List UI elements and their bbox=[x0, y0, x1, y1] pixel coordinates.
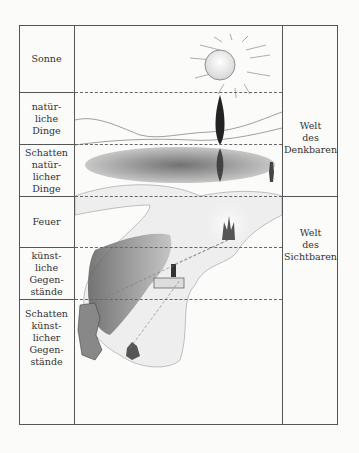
right-column: Welt des Denkbaren Welt des Sichtbaren bbox=[282, 25, 338, 425]
row-feuer: Feuer bbox=[19, 196, 74, 247]
row-label: natür- liche Dinge bbox=[32, 101, 61, 137]
wall bbox=[154, 278, 184, 288]
section-label: Welt des Sichtbaren bbox=[284, 227, 337, 263]
left-column: Sonne natür- liche Dinge Schatten natür-… bbox=[19, 25, 75, 425]
row-label: künst- liche Gegen- stände bbox=[19, 250, 74, 298]
tree-icon bbox=[216, 95, 225, 145]
row-separator bbox=[75, 196, 282, 197]
lake bbox=[85, 147, 275, 183]
standing-figure bbox=[269, 162, 274, 182]
row-natuerliche-dinge: natür- liche Dinge bbox=[19, 92, 74, 144]
section-welt-des-sichtbaren: Welt des Sichtbaren bbox=[283, 196, 338, 425]
carrier-figure bbox=[171, 264, 176, 277]
row-separator bbox=[75, 299, 282, 300]
row-label: Schatten natür- licher Dinge bbox=[25, 147, 68, 195]
sun-icon bbox=[190, 34, 270, 98]
row-kuenstliche-gegenstaende: künst- liche Gegen- stände bbox=[19, 247, 74, 299]
row-separator bbox=[75, 144, 282, 145]
row-label: Schatten künst- licher Gegen- stände bbox=[25, 308, 68, 368]
section-welt-des-denkbaren: Welt des Denkbaren bbox=[283, 25, 338, 196]
row-label: Feuer bbox=[33, 216, 61, 228]
row-schatten-natuerlicher-dinge: Schatten natür- licher Dinge bbox=[19, 144, 74, 196]
section-label: Welt des Denkbaren bbox=[284, 120, 337, 156]
row-sonne: Sonne bbox=[19, 25, 74, 92]
row-schatten-kuenstlicher-gegenstaende: Schatten künst- licher Gegen- stände bbox=[19, 299, 74, 425]
row-separator bbox=[75, 92, 282, 93]
row-label: Sonne bbox=[31, 53, 61, 65]
hills bbox=[75, 112, 282, 145]
row-separator bbox=[75, 247, 282, 248]
